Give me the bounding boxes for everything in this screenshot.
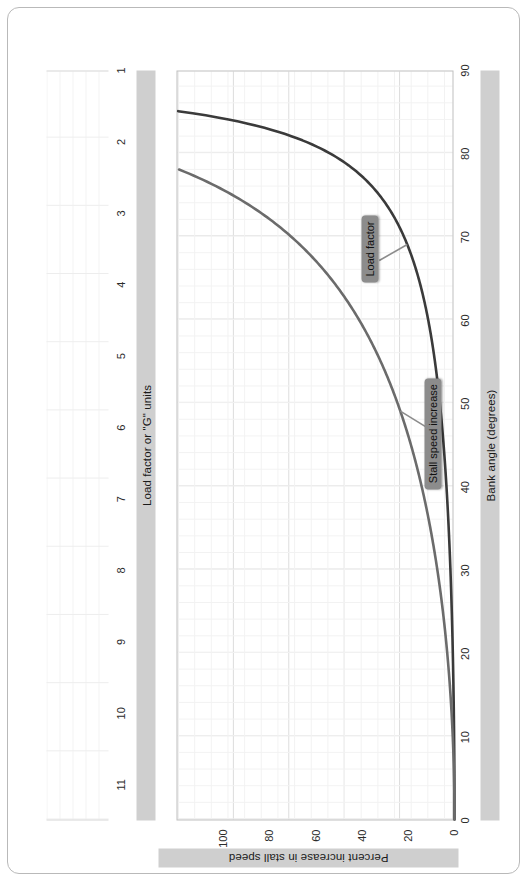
secondary-tick-8: 8 <box>115 567 127 573</box>
secondary-tick-5: 5 <box>115 353 127 359</box>
x-tick-60: 60 <box>459 314 471 326</box>
x-tick-80: 80 <box>459 148 471 160</box>
secondary-tick-6: 6 <box>115 425 127 431</box>
plot-area: Load factor Stall speed increase <box>177 71 454 821</box>
annotation-stall-speed-increase: Stall speed increase <box>424 378 441 489</box>
x-axis-title: Bank angle (degrees) <box>481 71 500 821</box>
y-tick-100: 100 <box>217 830 229 848</box>
secondary-tick-11: 11 <box>115 779 127 790</box>
y-tick-20: 20 <box>401 830 413 842</box>
x-tick-30: 30 <box>459 564 471 576</box>
annotation-load-factor-label: Load factor <box>364 221 376 276</box>
y-axis-title: Percent increase in stall speed <box>159 849 459 868</box>
x-tick-20: 20 <box>459 648 471 660</box>
annotation-stall-speed-label: Stall speed increase <box>427 384 439 483</box>
plot-wrapper: Load factor Stall speed increase 0102030… <box>177 8 477 874</box>
secondary-axis-grid <box>47 71 109 821</box>
y-tick-0: 0 <box>448 830 460 836</box>
x-tick-70: 70 <box>459 231 471 243</box>
secondary-tick-10: 10 <box>115 707 127 719</box>
x-tick-10: 10 <box>459 731 471 743</box>
load-factor-pointer-line <box>379 245 407 261</box>
secondary-tick-2: 2 <box>115 139 127 145</box>
secondary-tick-3: 3 <box>115 210 127 216</box>
secondary-axis-title: Load factor or "G" units <box>137 71 156 821</box>
load-factor-curve <box>178 111 454 819</box>
x-tick-90: 90 <box>459 64 471 76</box>
y-tick-80: 80 <box>263 830 275 842</box>
secondary-tick-1: 1 <box>115 67 127 73</box>
secondary-tick-7: 7 <box>115 496 127 502</box>
y-tick-60: 60 <box>309 830 321 842</box>
secondary-tick-4: 4 <box>115 282 127 288</box>
chart-stage: 1234567891011 Load factor or "G" units L… <box>9 8 520 874</box>
secondary-tick-9: 9 <box>115 639 127 645</box>
figure-frame: 1234567891011 Load factor or "G" units L… <box>7 7 520 874</box>
x-tick-0: 0 <box>459 817 471 823</box>
x-tick-50: 50 <box>459 398 471 410</box>
stall-speed-curve <box>179 170 454 820</box>
annotation-load-factor: Load factor <box>361 215 378 282</box>
secondary-axis-strip: 1234567891011 Load factor or "G" units <box>19 8 139 874</box>
x-tick-40: 40 <box>459 481 471 493</box>
y-tick-40: 40 <box>355 830 367 842</box>
curves-svg <box>178 70 455 820</box>
